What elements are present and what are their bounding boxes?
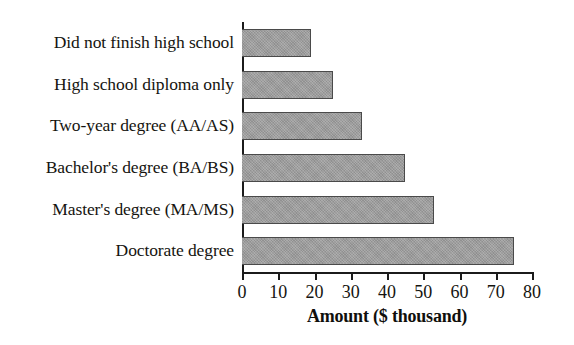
bar-1	[242, 71, 333, 99]
x-tick-mark-10	[278, 272, 280, 280]
x-tick-mark-40	[387, 272, 389, 280]
bar-0	[242, 29, 311, 57]
bar-3	[242, 154, 405, 182]
y-axis-line	[242, 22, 244, 272]
category-label-1: High school diploma only	[0, 76, 234, 94]
plot-area: 01020304050607080	[242, 22, 532, 272]
x-tick-label-80: 80	[512, 283, 552, 301]
x-tick-mark-0	[242, 272, 244, 280]
category-label-0: Did not finish high school	[0, 34, 234, 52]
x-tick-label-0: 0	[222, 283, 262, 301]
x-tick-label-10: 10	[258, 283, 298, 301]
x-tick-mark-50	[423, 272, 425, 280]
x-tick-label-30: 30	[331, 283, 371, 301]
category-label-2: Two-year degree (AA/AS)	[0, 117, 234, 135]
category-label-4: Master's degree (MA/MS)	[0, 201, 234, 219]
x-tick-label-60: 60	[440, 283, 480, 301]
x-tick-mark-80	[532, 272, 534, 280]
x-tick-mark-70	[496, 272, 498, 280]
x-tick-label-70: 70	[476, 283, 516, 301]
bar-4	[242, 196, 434, 224]
category-label-3: Bachelor's degree (BA/BS)	[0, 159, 234, 177]
bar-5	[242, 237, 514, 265]
bar-chart-figure: Did not finish high school High school d…	[0, 0, 574, 345]
x-tick-mark-60	[460, 272, 462, 280]
x-axis-title: Amount ($ thousand)	[242, 306, 532, 327]
x-tick-label-20: 20	[295, 283, 335, 301]
x-tick-mark-30	[351, 272, 353, 280]
bar-2	[242, 112, 362, 140]
x-tick-mark-20	[315, 272, 317, 280]
x-tick-label-40: 40	[367, 283, 407, 301]
category-label-5: Doctorate degree	[0, 242, 234, 260]
x-tick-label-50: 50	[403, 283, 443, 301]
